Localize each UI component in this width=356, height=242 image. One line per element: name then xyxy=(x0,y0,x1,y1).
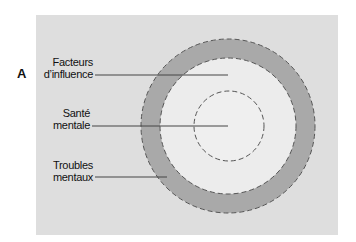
panel-letter: A xyxy=(17,66,26,81)
label-health-line2: mentale xyxy=(40,119,90,131)
label-disorders-line1: Troubles xyxy=(40,159,93,171)
label-health: Santé mentale xyxy=(40,107,90,131)
label-health-line1: Santé xyxy=(40,107,90,119)
label-disorders: Troubles mentaux xyxy=(40,159,93,183)
diagram: A Facteurs d’influence Santé mentale Tro… xyxy=(0,0,356,242)
label-factors: Facteurs d’influence xyxy=(40,56,93,80)
label-factors-line2: d’influence xyxy=(40,68,93,80)
label-disorders-line2: mentaux xyxy=(40,171,93,183)
label-factors-line1: Facteurs xyxy=(40,56,93,68)
